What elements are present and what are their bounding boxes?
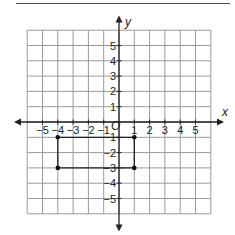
x-axis-label: x (221, 105, 229, 119)
y-axis-arrow-down-icon (116, 225, 123, 232)
y-axis-arrow-up-icon (116, 15, 123, 22)
vertex-point (56, 166, 61, 171)
x-tick-label: 3 (162, 124, 168, 136)
x-tick-label: 2 (147, 124, 153, 136)
x-tick-label: −3 (67, 124, 80, 136)
y-tick-label: 5 (110, 40, 116, 52)
x-tick-label: −2 (82, 124, 95, 136)
x-tick-label: 1 (131, 124, 137, 136)
y-tick-label: 2 (110, 85, 116, 97)
vertex-point (132, 135, 137, 140)
vertex-point (132, 166, 137, 171)
y-tick-label: 1 (110, 101, 116, 113)
x-axis-arrow-right-icon (217, 119, 224, 126)
x-axis-arrow-left-icon (14, 119, 21, 126)
coordinate-plane: xyO−5−4−3−2−11234554321−1−2−3−4−5 (0, 0, 235, 235)
x-tick-label: −4 (52, 124, 65, 136)
y-tick-label: −5 (103, 193, 116, 205)
y-tick-label: 3 (110, 70, 116, 82)
x-tick-label: −5 (36, 124, 49, 136)
vertex-point (56, 135, 61, 140)
y-tick-label: −4 (103, 177, 116, 189)
y-axis-label: y (124, 15, 132, 29)
x-tick-label: 5 (192, 124, 198, 136)
x-tick-label: 4 (177, 124, 183, 136)
y-tick-label: −2 (103, 147, 116, 159)
y-tick-label: 4 (110, 55, 116, 67)
